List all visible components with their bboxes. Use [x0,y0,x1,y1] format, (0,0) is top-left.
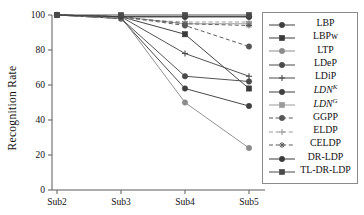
legend-marker-icon [267,17,297,29]
legend-marker-icon [267,70,297,82]
legend-label: TL-DR-LDP [297,165,354,175]
marker-circle [246,145,251,150]
series-ltp [54,12,251,150]
series-ggpp [54,12,251,49]
legend-label: LTP [297,45,354,55]
marker-circle [182,100,187,105]
legend-item-celdp[interactable]: CELDP [263,137,357,150]
marker-square [279,102,284,107]
series-ldep [54,12,251,84]
series-dr-ldp [54,12,251,19]
x-tick-label: Sub2 [47,197,67,207]
legend-item-dr-ldp[interactable]: DR-LDP [263,150,357,163]
legend-marker-icon [267,43,297,55]
legend-label: LDNK [297,84,354,95]
legend-item-ldip[interactable]: LDiP [263,70,357,83]
legend-label: LDeP [297,58,354,68]
marker-square [279,35,284,40]
legend-label: LDiP [297,71,354,81]
marker-square [182,12,187,17]
legend-label: GGPP [297,112,354,122]
marker-circle [279,116,284,121]
series-line [57,15,249,106]
figure: Recognition Rate 020406080100Sub2Sub3Sub… [0,0,364,215]
marker-circle [279,62,284,67]
legend-item-ggpp[interactable]: GGPP [263,110,357,123]
y-tick-label: 40 [36,115,46,125]
y-tick-label: 0 [40,185,45,195]
series-line [57,15,249,82]
x-tick-label: Sub4 [175,197,195,207]
legend-marker-icon [267,164,297,176]
legend-label: ELDP [297,125,354,135]
axes [48,15,265,194]
marker-circle [182,86,187,91]
legend-label: LBPw [297,31,354,41]
marker-circle [279,49,284,54]
marker-square [118,12,123,17]
legend-item-tl-dr-ldp[interactable]: TL-DR-LDP [263,163,357,176]
y-tick-label: 20 [36,150,46,160]
marker-circle [246,103,251,108]
legend-label: DR-LDP [297,152,354,162]
marker-circle [246,44,251,49]
legend-marker-icon [267,151,297,163]
legend-marker-icon [267,110,297,122]
x-tick-label: Sub5 [239,197,259,207]
legend-item-ltp[interactable]: LTP [263,43,357,56]
legend-item-ldn-k[interactable]: LDNK [263,83,357,96]
marker-circle [279,156,284,161]
legend-marker-icon [267,97,297,109]
x-tick-label: Sub3 [111,197,131,207]
legend-marker-icon [267,124,297,136]
legend-item-lbpw[interactable]: LBPw [263,29,357,42]
series-ldn-g [54,12,251,26]
legend-marker-icon [267,84,297,96]
marker-circle [279,22,284,27]
legend: LBPLBPwLTPLDePLDiPLDNKLDNGGGPPELDPCELDPD… [262,12,358,184]
legend-item-lbp[interactable]: LBP [263,16,357,29]
series-celdp [54,12,252,29]
marker-circle [279,89,284,94]
legend-marker-icon [267,57,297,69]
legend-item-ldn-g[interactable]: LDNG [263,96,357,109]
legend-item-ldep[interactable]: LDeP [263,56,357,69]
marker-circle [182,74,187,79]
series-eldp [54,12,252,25]
legend-label: LDNG [297,98,354,109]
legend-marker-icon [267,30,297,42]
marker-circle [246,79,251,84]
marker-square [54,12,59,17]
marker-square [246,12,251,17]
series-lbp [54,12,251,108]
y-tick-label: 60 [36,80,46,90]
marker-square [279,169,284,174]
marker-square [246,86,251,91]
y-tick-label: 80 [36,45,46,55]
legend-marker-icon [267,137,297,149]
legend-label: CELDP [297,138,354,148]
y-tick-label: 100 [31,10,46,20]
series-layer [54,12,252,151]
legend-label: LBP [297,18,354,28]
series-line [57,15,249,89]
marker-square [182,32,187,37]
series-line [57,15,249,47]
legend-item-eldp[interactable]: ELDP [263,123,357,136]
